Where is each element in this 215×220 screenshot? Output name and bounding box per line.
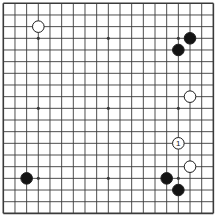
black-stone — [184, 33, 196, 45]
go-board-canvas: 1 — [0, 0, 215, 220]
white-stone-disc — [184, 91, 196, 103]
star-point — [177, 37, 180, 40]
black-stone — [21, 173, 33, 185]
black-stone — [161, 173, 173, 185]
black-stone-disc — [184, 33, 196, 45]
star-point — [37, 37, 40, 40]
star-point — [177, 107, 180, 110]
go-board-diagram: 1 — [0, 0, 215, 220]
star-point — [37, 107, 40, 110]
black-stone — [173, 184, 185, 196]
black-stone-disc — [173, 184, 185, 196]
black-stone — [173, 44, 185, 56]
black-stone-disc — [161, 173, 173, 185]
move-number-label: 1 — [176, 139, 181, 148]
star-point — [177, 177, 180, 180]
star-point — [37, 177, 40, 180]
star-point — [107, 37, 110, 40]
white-stone: 1 — [173, 138, 185, 150]
black-stone-disc — [21, 173, 33, 185]
white-stone — [33, 21, 45, 33]
white-stone-disc — [184, 161, 196, 173]
black-stone-disc — [173, 44, 185, 56]
star-point — [107, 107, 110, 110]
white-stone — [184, 91, 196, 103]
white-stone-disc — [33, 21, 45, 33]
white-stone — [184, 161, 196, 173]
star-point — [107, 177, 110, 180]
